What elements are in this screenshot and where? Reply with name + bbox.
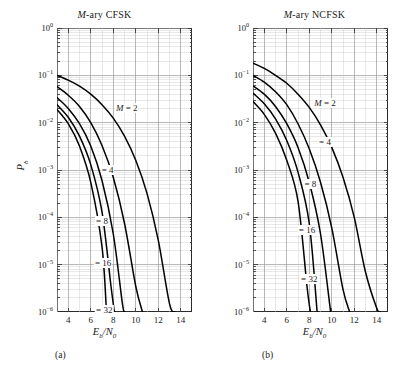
ytick-label: 10−3 xyxy=(234,166,249,175)
xtick-label: 14 xyxy=(372,315,381,325)
xtick-label: 4 xyxy=(66,315,71,325)
panel-a-canvas xyxy=(57,28,192,312)
panel-a-plot-area: 10010−110−210−310−410−510−6 468101214 M … xyxy=(57,28,192,312)
panel-b-plot-area: 10010−110−210−310−410−510−6 468101214 M … xyxy=(253,28,388,312)
panel-a-title: M-ary CFSK xyxy=(0,8,209,21)
xtick-label: 12 xyxy=(154,315,163,325)
xtick-label: 12 xyxy=(350,315,359,325)
xtick-label: 6 xyxy=(89,315,94,325)
panel-a-y-axis-label: Pb xyxy=(15,161,26,171)
curve-label: = 16 xyxy=(298,225,316,235)
xtick-label: 14 xyxy=(176,315,185,325)
curve-label: = 4 xyxy=(318,137,332,147)
ytick-label: 10−6 xyxy=(38,308,53,317)
panel-b-canvas xyxy=(253,28,388,312)
ytick-label: 100 xyxy=(41,24,53,33)
panel-b-subcaption: (b) xyxy=(262,350,273,360)
ytick-label: 10−4 xyxy=(38,213,53,222)
curve-label: M = 2 xyxy=(313,98,337,108)
panel-b-xlabel-tail: /N xyxy=(313,326,323,337)
curve-label: M = 2 xyxy=(115,103,139,113)
figure-root: M-ary CFSK 10010−110−210−310−410−510−6 4… xyxy=(0,0,419,375)
panel-b-title-rest: -ary NCFSK xyxy=(292,9,345,20)
ytick-label: 10−1 xyxy=(234,71,249,80)
xtick-label: 8 xyxy=(111,315,116,325)
xtick-label: 8 xyxy=(307,315,312,325)
panel-b-xlabel-sub2: 0 xyxy=(323,332,327,340)
curve-label: = 4 xyxy=(101,165,115,175)
panel-b-title: M-ary NCFSK xyxy=(210,8,419,21)
panel-a-title-rest: -ary CFSK xyxy=(86,9,131,20)
panel-a: M-ary CFSK 10010−110−210−310−410−510−6 4… xyxy=(0,0,209,375)
ytick-label: 100 xyxy=(237,24,249,33)
ytick-label: 10−6 xyxy=(234,308,249,317)
panel-a-x-axis-label: Eb/N0 xyxy=(0,326,209,337)
curve-label: = 32 xyxy=(300,274,318,284)
ytick-label: 10−3 xyxy=(38,166,53,175)
panel-b-x-axis-label: Eb/N0 xyxy=(210,326,419,337)
ytick-label: 10−5 xyxy=(234,260,249,269)
panel-a-subcaption: (a) xyxy=(55,350,66,360)
curve-label: = 8 xyxy=(95,216,109,226)
ytick-label: 10−5 xyxy=(38,260,53,269)
xtick-label: 4 xyxy=(262,315,267,325)
panel-a-title-italic: M xyxy=(78,9,87,20)
panel-a-ylabel-sub: b xyxy=(22,161,30,165)
panel-b: M-ary NCFSK 10010−110−210−310−410−510−6 … xyxy=(210,0,419,375)
xtick-label: 6 xyxy=(285,315,290,325)
xtick-label: 10 xyxy=(131,315,140,325)
ytick-label: 10−4 xyxy=(234,213,249,222)
ytick-label: 10−2 xyxy=(234,118,249,127)
panel-a-xlabel-sub2: 0 xyxy=(113,332,117,340)
ytick-label: 10−1 xyxy=(38,71,53,80)
curve-label: = 32 xyxy=(95,305,113,315)
panel-a-xlabel-tail: /N xyxy=(103,326,113,337)
xtick-label: 10 xyxy=(327,315,336,325)
panel-a-ylabel-main: P xyxy=(15,164,26,170)
curve-label: = 8 xyxy=(303,179,317,189)
curve-label: = 16 xyxy=(94,258,112,268)
ytick-label: 10−2 xyxy=(38,118,53,127)
